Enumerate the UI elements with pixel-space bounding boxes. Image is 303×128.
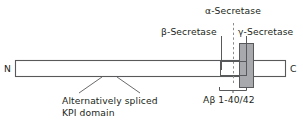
alternatively-spliced-label-line1: Alternatively spliced bbox=[62, 95, 158, 106]
alpha-secretase-label: α-Secretase bbox=[205, 5, 261, 16]
beta-secretase-label: β-Secretase bbox=[161, 26, 217, 37]
app-secretase-diagram: N C α-Secretase β-Secretase γ-Secretase … bbox=[0, 0, 303, 128]
abeta-span-label: Aβ 1-40/42 bbox=[203, 94, 255, 105]
n-terminus-label: N bbox=[4, 63, 11, 74]
gamma-secretase-label: γ-Secretase bbox=[238, 26, 293, 37]
c-terminus-label: C bbox=[290, 63, 296, 74]
kpi-domain-label-line2: KPI domain bbox=[62, 107, 115, 118]
kpi-leader-line-left bbox=[79, 77, 102, 93]
kpi-leader-line-right bbox=[117, 77, 140, 93]
diagram-canvas bbox=[0, 0, 303, 128]
